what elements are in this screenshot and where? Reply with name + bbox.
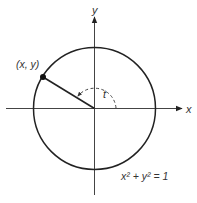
radius-line	[43, 77, 95, 109]
angle-label: t	[103, 88, 107, 100]
angle-arc	[78, 88, 116, 108]
unit-circle-diagram: y x (x, y) t x² + y² = 1	[0, 0, 197, 203]
point-label: (x, y)	[16, 58, 39, 70]
x-axis-label: x	[185, 103, 192, 115]
point-marker	[40, 74, 46, 80]
y-axis-label: y	[91, 4, 99, 16]
equation-label: x² + y² = 1	[120, 170, 168, 182]
